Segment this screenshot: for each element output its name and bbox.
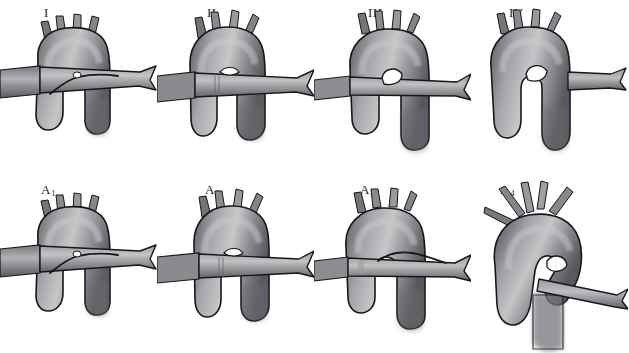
aortic-arch-body: [314, 10, 471, 152]
panel-2-illustration: [157, 0, 314, 176]
panel-6-illustration: [157, 177, 314, 353]
aortic-arch-body: [157, 10, 314, 140]
panel-7-illustration: [314, 177, 471, 353]
panel-4: IV: [471, 0, 628, 176]
figure-canvas: I: [0, 0, 629, 353]
panel-3-illustration: [314, 0, 471, 176]
panel-1-illustration: [0, 0, 157, 176]
panel-2: II: [157, 0, 314, 176]
aortic-arch-body: [484, 181, 628, 351]
aortic-arch-body: [314, 188, 471, 331]
panel-5-illustration: [0, 177, 157, 353]
panel-3: III: [314, 0, 471, 176]
aortic-arch-body: [157, 189, 314, 321]
panel-8: A4: [471, 177, 628, 353]
panel-5: A1: [0, 177, 157, 353]
panel-6: A2: [157, 177, 314, 353]
panel-1: I: [0, 0, 157, 176]
panel-8-illustration: [471, 177, 628, 353]
aortic-arch-body: [0, 193, 156, 317]
aortic-arch-body: [491, 9, 626, 151]
aortic-arch-body: [0, 14, 156, 136]
panel-7: A3: [314, 177, 471, 353]
panel-4-illustration: [471, 0, 628, 176]
